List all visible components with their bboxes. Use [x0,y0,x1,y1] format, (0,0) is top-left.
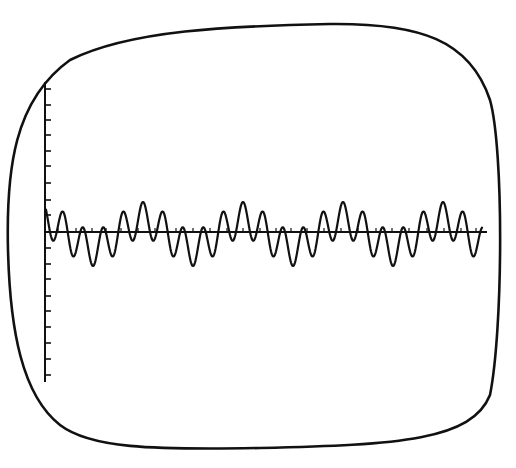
waveform-trace [46,202,482,266]
crt-screen-outline [8,24,500,449]
horizontal-axis [45,228,487,232]
oscilloscope-figure [0,0,516,468]
